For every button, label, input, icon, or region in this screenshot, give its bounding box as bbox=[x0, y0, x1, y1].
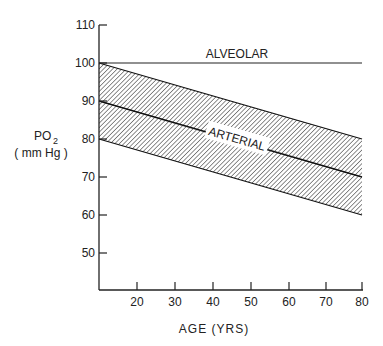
svg-text:110: 110 bbox=[76, 18, 95, 32]
svg-text:80: 80 bbox=[82, 132, 96, 146]
svg-text:50: 50 bbox=[244, 295, 258, 309]
svg-text:70: 70 bbox=[319, 295, 333, 309]
svg-text:60: 60 bbox=[82, 208, 96, 222]
y-ticks bbox=[99, 25, 107, 253]
svg-text:( mm Hg ): ( mm Hg ) bbox=[14, 146, 67, 160]
x-tick-labels: 20 30 40 50 60 70 80 bbox=[130, 295, 369, 309]
svg-text:2: 2 bbox=[53, 136, 58, 146]
svg-text:40: 40 bbox=[206, 295, 220, 309]
svg-text:90: 90 bbox=[82, 94, 96, 108]
svg-text:PO: PO bbox=[34, 129, 51, 143]
chart: ALVEOLAR ARTERIAL 50 60 70 80 90 100 110 bbox=[0, 0, 383, 346]
svg-text:50: 50 bbox=[82, 246, 96, 260]
y-axis-label: PO 2 ( mm Hg ) bbox=[14, 129, 67, 160]
svg-text:20: 20 bbox=[130, 295, 144, 309]
svg-text:70: 70 bbox=[82, 170, 96, 184]
x-axis-label: AGE (YRS) bbox=[179, 322, 249, 336]
x-ticks bbox=[137, 282, 362, 290]
svg-text:30: 30 bbox=[168, 295, 182, 309]
svg-text:60: 60 bbox=[282, 295, 296, 309]
svg-text:100: 100 bbox=[75, 56, 95, 70]
alveolar-label: ALVEOLAR bbox=[206, 47, 269, 61]
y-tick-labels: 50 60 70 80 90 100 110 bbox=[75, 18, 95, 260]
svg-text:80: 80 bbox=[355, 295, 369, 309]
